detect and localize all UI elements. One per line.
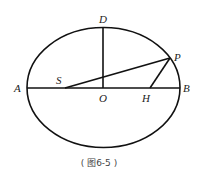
label-A: A (13, 82, 21, 94)
label-P: P (173, 51, 181, 63)
label-B: B (183, 82, 190, 94)
ellipse-diagram: A B D O S H P ( 图6-5 ) (0, 0, 198, 180)
label-H: H (141, 92, 151, 104)
segment-SP (65, 58, 170, 88)
label-D: D (98, 13, 107, 25)
label-S: S (56, 74, 62, 86)
label-O: O (99, 92, 107, 104)
figure-caption: ( 图6-5 ) (81, 158, 117, 168)
